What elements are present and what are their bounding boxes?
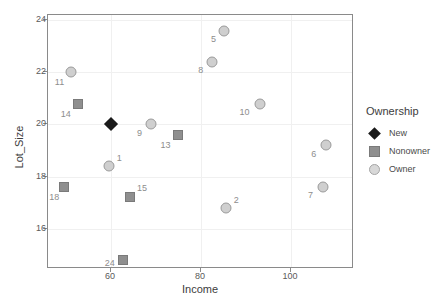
x-axis-tick-label: 80 [195, 271, 205, 281]
legend-item-label: Nonowner [389, 146, 430, 156]
legend-item-owner[interactable]: Owner [366, 160, 445, 178]
data-point-label: 10 [239, 107, 249, 117]
legend-item-nonowner[interactable]: Nonowner [366, 142, 445, 160]
data-point-owner[interactable] [254, 98, 265, 109]
data-point-nonowner[interactable] [125, 192, 135, 202]
data-point-label: 18 [49, 192, 59, 202]
x-axis-tick-label: 100 [282, 271, 297, 281]
data-point-owner[interactable] [317, 181, 328, 192]
data-point-nonowner[interactable] [59, 182, 69, 192]
legend-title: Ownership [366, 105, 445, 117]
data-point-label: 1 [117, 153, 122, 163]
data-point-owner[interactable] [219, 25, 230, 36]
gridline-horizontal [48, 229, 352, 230]
data-point-label: 7 [308, 190, 313, 200]
data-point-label: 2 [234, 195, 239, 205]
plot-area: 115891061721413181524 [47, 14, 353, 268]
gridline-horizontal [48, 177, 352, 178]
data-point-label: 13 [161, 140, 171, 150]
legend: Ownership New Nonowner Owner [366, 105, 445, 178]
data-point-owner[interactable] [221, 202, 232, 213]
data-point-new[interactable] [104, 117, 118, 131]
diamond-marker-icon [366, 129, 382, 138]
legend-item-label: New [389, 128, 407, 138]
y-axis-tick-label: 18 [36, 171, 46, 181]
y-axis-tick-label: 20 [36, 118, 46, 128]
data-point-owner[interactable] [145, 119, 156, 130]
data-point-label: 9 [137, 128, 142, 138]
data-point-nonowner[interactable] [118, 255, 128, 265]
data-point-label: 5 [211, 34, 216, 44]
data-point-owner[interactable] [320, 140, 331, 151]
data-point-nonowner[interactable] [73, 99, 83, 109]
data-point-label: 6 [311, 149, 316, 159]
data-point-label: 14 [61, 109, 71, 119]
data-point-owner[interactable] [65, 67, 76, 78]
data-point-owner[interactable] [104, 161, 115, 172]
scatter-plot-figure: 115891061721413181524 16182022246080100 … [0, 0, 445, 301]
data-point-nonowner[interactable] [173, 130, 183, 140]
data-point-label: 8 [198, 65, 203, 75]
y-axis-title: Lot_Size [13, 112, 25, 182]
data-point-owner[interactable] [206, 56, 217, 67]
legend-item-new[interactable]: New [366, 124, 445, 142]
gridline-horizontal [48, 20, 352, 21]
data-point-label: 15 [137, 183, 147, 193]
x-axis-title: Income [47, 283, 353, 295]
circle-marker-icon [366, 164, 382, 175]
y-axis-tick-label: 16 [36, 223, 46, 233]
data-point-label: 11 [55, 77, 64, 87]
square-marker-icon [366, 146, 382, 157]
gridline-horizontal [48, 124, 352, 125]
legend-item-label: Owner [389, 164, 416, 174]
x-axis-tick-label: 60 [105, 271, 115, 281]
y-axis-tick-label: 22 [36, 66, 46, 76]
y-axis-tick-label: 24 [36, 14, 46, 24]
data-point-label: 24 [105, 258, 115, 268]
